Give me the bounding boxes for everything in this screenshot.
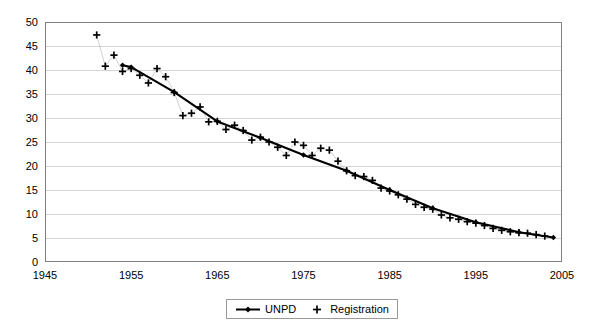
registration-point — [317, 145, 324, 152]
registration-point — [93, 31, 100, 38]
unpd-point — [551, 235, 556, 240]
unpd-point — [120, 63, 125, 68]
registration-point — [291, 138, 298, 145]
legend-item: Registration — [310, 304, 389, 315]
registration-point — [179, 112, 186, 119]
unpd-point — [473, 219, 478, 224]
chart-container: 05101520253035404550 1945195519651975198… — [0, 0, 601, 326]
registration-point — [205, 118, 212, 125]
registration-connector — [97, 35, 545, 236]
registration-point — [197, 103, 204, 110]
series-layer — [0, 0, 601, 326]
chart-legend: UNPDRegistration — [226, 299, 398, 319]
legend-label: Registration — [330, 304, 389, 315]
registration-point — [119, 68, 126, 75]
registration-point — [326, 147, 333, 154]
legend-line-diamond-icon — [235, 304, 261, 315]
legend-plus-icon — [310, 304, 324, 315]
registration-point — [541, 232, 548, 239]
unpd-point — [301, 152, 306, 157]
unpd-line — [123, 65, 554, 237]
unpd-point — [516, 230, 521, 235]
registration-point — [188, 110, 195, 117]
registration-point — [524, 230, 531, 237]
registration-point — [102, 63, 109, 70]
registration-point — [110, 52, 117, 59]
legend-item: UNPD — [235, 304, 296, 315]
legend-label: UNPD — [265, 304, 296, 315]
registration-point — [533, 231, 540, 238]
